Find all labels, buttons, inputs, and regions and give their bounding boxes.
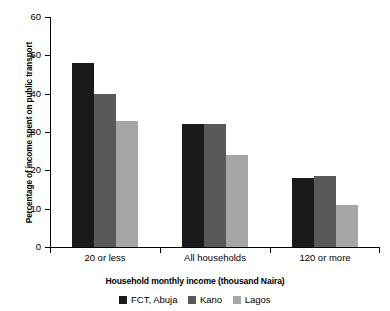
y-axis-tick-label: 20 — [30, 164, 41, 175]
y-axis-tick-label: 0 — [36, 241, 41, 252]
bar — [94, 94, 116, 247]
bar — [314, 176, 336, 247]
x-axis-title: Household monthly income (thousand Naira… — [0, 276, 390, 286]
legend-label: FCT, Abuja — [131, 294, 177, 305]
bar — [116, 121, 138, 248]
bar-chart: Percentage of income spent on public tra… — [0, 0, 390, 311]
y-axis-tick-label: 50 — [30, 49, 41, 60]
legend-label: Kano — [200, 294, 222, 305]
legend-swatch-icon — [119, 296, 127, 304]
y-axis-tick-label: 10 — [30, 203, 41, 214]
bar — [336, 205, 358, 247]
x-axis-category-label: 120 or more — [270, 252, 380, 263]
bar — [204, 124, 226, 247]
y-axis-tick-label: 40 — [30, 88, 41, 99]
legend-swatch-icon — [188, 296, 196, 304]
legend-label: Lagos — [245, 294, 271, 305]
legend-item: Kano — [188, 294, 222, 305]
plot-area: 0102030405060 — [50, 17, 380, 247]
bar — [226, 155, 248, 247]
bar — [182, 124, 204, 247]
bar — [292, 178, 314, 247]
legend-item: Lagos — [233, 294, 270, 305]
legend-item: FCT, Abuja — [119, 294, 177, 305]
y-axis-tick-label: 60 — [30, 11, 41, 22]
bars-layer — [50, 17, 380, 247]
bar — [72, 63, 94, 247]
legend-swatch-icon — [233, 296, 241, 304]
x-axis-category-label: 20 or less — [50, 252, 160, 263]
x-axis-category-label: All households — [160, 252, 270, 263]
legend: FCT, AbujaKanoLagos — [0, 294, 390, 305]
y-axis-tick-label: 30 — [30, 126, 41, 137]
x-axis-line — [50, 247, 380, 248]
